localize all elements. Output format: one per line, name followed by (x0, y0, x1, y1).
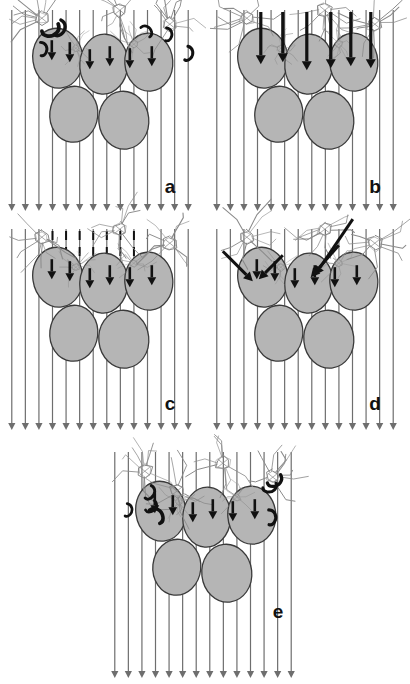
flow-arrowhead (76, 204, 83, 211)
flow-arrowhead (240, 204, 247, 211)
phage-capsid-hatch (242, 233, 252, 241)
panel-a: a (8, 0, 206, 211)
flow-arrowhead (49, 423, 56, 430)
phage-tail-fiber (374, 30, 375, 58)
cell-ellipse (47, 84, 101, 145)
phage-tail-fiber (17, 241, 37, 257)
phage-tail-fiber (132, 448, 142, 466)
flow-arrowhead (117, 423, 124, 430)
flow-arrowhead (185, 423, 192, 430)
phage-tail-fiber (380, 7, 399, 21)
flow-arrowhead (295, 423, 302, 430)
phage-tail-fiber (116, 207, 123, 224)
flow-arrowhead (227, 204, 234, 211)
flow-arrowhead (274, 671, 281, 678)
flow-arrowhead (165, 671, 172, 678)
phage-tail-fiber (228, 466, 253, 487)
phage-tail-fiber (338, 13, 369, 24)
flow-arrowhead (288, 671, 295, 678)
flow-arrowhead (35, 204, 42, 211)
panel-c: c (8, 192, 192, 430)
panel-label-b: b (369, 176, 381, 197)
flow-arrowhead (49, 204, 56, 211)
flow-arrowhead (130, 423, 137, 430)
flow-arrowhead (157, 204, 164, 211)
flow-arrowhead (8, 423, 15, 430)
phage-tail-fiber (380, 247, 402, 261)
panel-b: b (210, 0, 406, 211)
flow-arrowhead (90, 423, 97, 430)
flow-arrowhead (171, 423, 178, 430)
flow-arrowhead (260, 671, 267, 678)
phage-capsid-hatch (370, 239, 380, 247)
flow-arrowhead (62, 204, 69, 211)
flow-arrowhead (76, 423, 83, 430)
flow-arrowhead (335, 423, 342, 430)
phage-tail-fiber (223, 208, 244, 232)
phage-tail-fiber (176, 26, 193, 31)
cell-ellipse (96, 89, 152, 152)
flow-arrowhead (138, 671, 145, 678)
flow-arrowhead (254, 423, 261, 430)
flow-arrowhead (103, 204, 110, 211)
flow-arrowhead (349, 423, 356, 430)
phage-tail-fiber (44, 0, 46, 13)
phage-tail-fiber (373, 0, 376, 18)
phage-tail-fiber (123, 234, 142, 257)
phage-tail-fiber (112, 471, 139, 482)
flow-arrowhead (35, 423, 42, 430)
panel-label-d: d (369, 393, 381, 414)
flow-arrowhead (335, 204, 342, 211)
flow-arrowhead (349, 204, 356, 211)
flow-arrowhead (281, 423, 288, 430)
flow-arrowhead (144, 423, 151, 430)
phage-tail-fiber (248, 199, 271, 231)
phage-capsid-hatch (140, 467, 150, 475)
phage-tail-fiber (92, 224, 115, 227)
phage-tail-fiber (330, 12, 360, 23)
flow-arrowhead (103, 423, 110, 430)
flow-arrowhead (322, 204, 329, 211)
phage-capsid-hatch (165, 239, 175, 247)
cell-ellipse (29, 244, 87, 310)
cell-ellipse (252, 303, 306, 364)
flow-arrowhead (308, 204, 315, 211)
cell-ellipse (199, 542, 255, 605)
flow-arrowhead (22, 423, 29, 430)
flow-arrowhead (111, 671, 118, 678)
panel-label-a: a (165, 176, 176, 197)
flow-arrowhead (362, 204, 369, 211)
phage-tail-fiber (214, 19, 241, 28)
flow-arrowhead (227, 423, 234, 430)
flow-arrowhead (254, 204, 261, 211)
phage-tail-fiber (10, 237, 36, 241)
flow-arrowhead (376, 204, 383, 211)
flow-arrowhead (213, 204, 220, 211)
cell-ellipse (252, 84, 306, 145)
flow-arrowhead (179, 671, 186, 678)
phage-tail-fiber (174, 248, 187, 267)
flow-arrowhead (240, 423, 247, 430)
phage-tail-fiber (10, 19, 37, 24)
phage-capsid-hatch (268, 473, 278, 481)
phage-tail-fiber (102, 12, 114, 21)
phage-tail-fiber (232, 480, 237, 494)
phage-tail-fiber (93, 231, 114, 246)
phage-tail-fiber (146, 443, 153, 465)
phage-tail-fiber (18, 214, 37, 234)
cell-ellipse (150, 537, 204, 598)
flow-arrowhead (362, 423, 369, 430)
phage-tail-fiber (253, 238, 276, 245)
cell-ellipse (301, 89, 357, 152)
phage-tail-fiber (329, 216, 348, 226)
phage-tail-fiber (125, 0, 148, 7)
flow-arrowhead (62, 423, 69, 430)
cell-ellipse (301, 308, 357, 371)
panel-label-e: e (273, 601, 284, 622)
cell-ellipse (181, 486, 233, 549)
phage-tail-fiber (147, 220, 166, 239)
phage-tail-fiber (123, 455, 140, 468)
flow-arrowhead (247, 671, 254, 678)
phage-capsid-hatch (242, 14, 252, 22)
flow-arrowhead (376, 423, 383, 430)
